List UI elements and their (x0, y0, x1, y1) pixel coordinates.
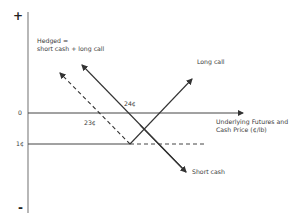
x-axis-label-line2: Cash Price (¢/lb) (216, 126, 267, 134)
payoff-diagram (0, 0, 296, 221)
long-call-label: Long call (197, 58, 225, 66)
annotation-23-cents: 23¢ (84, 119, 96, 127)
short-cash-label: Short cash (192, 168, 225, 176)
hedged-title-line1: Hedged = (37, 37, 68, 45)
annotation-24-cents: 24¢ (124, 100, 136, 108)
hedged-dashed-line (60, 73, 130, 144)
hedged-title-line2: short cash + long call (37, 45, 104, 53)
y-axis-minus-label: - (18, 201, 23, 215)
x-axis-label-line1: Underlying Futures and (216, 118, 288, 126)
long-call-line (130, 79, 192, 144)
y-axis-plus-label: + (13, 9, 23, 23)
y-tick-one-cent: 1¢ (16, 140, 24, 148)
y-tick-zero: 0 (18, 109, 22, 117)
